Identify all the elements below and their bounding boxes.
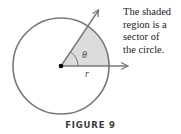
description-line: The shaded xyxy=(123,6,181,19)
figure-caption: FIGURE 9 xyxy=(0,120,181,130)
radius-label: r xyxy=(85,68,89,79)
description-line: the circle. xyxy=(123,44,181,57)
sector-description: The shaded region is a sector of the cir… xyxy=(123,6,181,56)
description-line: sector of xyxy=(123,31,181,44)
description-line: region is a xyxy=(123,19,181,32)
shaded-sector xyxy=(61,26,109,66)
center-dot xyxy=(59,64,64,69)
theta-label: θ xyxy=(82,49,87,60)
